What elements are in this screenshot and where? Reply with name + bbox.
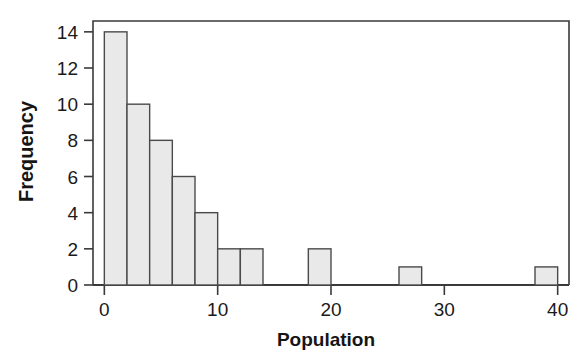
x-tick-label: 0	[74, 300, 134, 319]
y-tick-label: 6	[38, 168, 78, 187]
x-tick-label: 40	[528, 300, 584, 319]
y-tick-label: 12	[38, 59, 78, 78]
y-tick-marks	[84, 32, 93, 285]
histogram-bar	[195, 213, 218, 285]
histogram-bar	[399, 267, 422, 285]
x-tick-label: 20	[301, 300, 361, 319]
histogram-bar	[218, 249, 241, 285]
histogram-bar	[308, 249, 331, 285]
histogram-bar	[104, 32, 127, 285]
y-tick-label: 4	[38, 204, 78, 223]
histogram-bar	[172, 177, 195, 285]
histogram-bar	[240, 249, 263, 285]
histogram-bar	[150, 140, 173, 285]
y-tick-label: 2	[38, 240, 78, 259]
y-axis-title: Frequency	[15, 52, 38, 252]
x-tick-label: 10	[188, 300, 248, 319]
histogram-bars	[104, 32, 557, 285]
y-tick-label: 0	[38, 276, 78, 295]
x-tick-marks	[104, 285, 557, 295]
x-axis-title: Population	[0, 329, 584, 351]
x-tick-label: 30	[414, 300, 474, 319]
histogram-bar	[535, 267, 558, 285]
y-tick-label: 10	[38, 95, 78, 114]
y-tick-label: 8	[38, 131, 78, 150]
histogram-bar	[127, 104, 150, 285]
y-tick-label: 14	[38, 23, 78, 42]
histogram-figure: 02468101214 010203040 Frequency Populati…	[0, 0, 584, 361]
